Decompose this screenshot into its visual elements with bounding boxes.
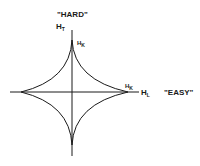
hl-subscript: L	[147, 92, 150, 98]
hard-axis-label: "HARD"	[57, 11, 88, 19]
hk-top-subscript: K	[81, 42, 85, 48]
ht-label: HT	[56, 23, 65, 32]
hk-top-label: HK	[77, 40, 85, 48]
astroid-diagram	[0, 0, 200, 166]
easy-axis-label: "EASY"	[164, 89, 193, 97]
hk-right-subscript: K	[129, 85, 133, 91]
hl-label: HL	[141, 89, 150, 98]
hk-right-label: HK	[125, 83, 133, 91]
ht-subscript: T	[62, 26, 65, 32]
